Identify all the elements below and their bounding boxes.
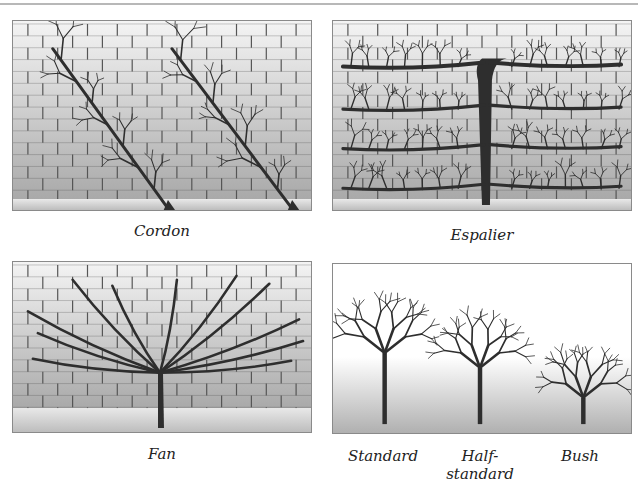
half-standard-caption: Half- standard xyxy=(432,447,528,483)
bush-caption: Bush xyxy=(540,447,620,465)
fan-trunk xyxy=(158,373,164,428)
fan-caption: Fan xyxy=(112,445,212,463)
standard-caption-text: Standard xyxy=(348,447,418,465)
free-standing-panel xyxy=(332,263,632,434)
espalier-panel xyxy=(332,20,632,211)
cordon-panel xyxy=(12,20,312,211)
half-standard-caption-line1: Half- xyxy=(462,447,499,465)
cordon-caption: Cordon xyxy=(112,222,212,240)
espalier-illustration xyxy=(333,21,631,210)
top-rule xyxy=(0,3,638,5)
bush-caption-text: Bush xyxy=(561,447,599,465)
half-standard-caption-line2: standard xyxy=(446,465,514,483)
fan-panel xyxy=(12,261,312,433)
cordon-illustration xyxy=(13,21,311,210)
standard-caption: Standard xyxy=(338,447,428,465)
espalier-caption: Espalier xyxy=(432,226,532,244)
free-standing-illustration xyxy=(333,264,631,433)
fan-illustration xyxy=(13,262,311,432)
